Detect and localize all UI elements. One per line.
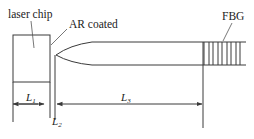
fbg-leader (223, 23, 232, 41)
l2-label: L2 (51, 115, 62, 129)
l1-label: L1 (25, 91, 36, 105)
fbg-grating (204, 42, 240, 65)
laser-chip-label: laser chip (8, 8, 53, 21)
laser-fbg-diagram: laser chip AR coated FBG L1 L (0, 0, 254, 139)
fbg-label: FBG (222, 10, 244, 22)
laser-chip-body (13, 35, 50, 82)
dimension-l3: L3 (62, 91, 202, 105)
ar-coated-leader (51, 29, 67, 45)
lensed-fiber (55, 42, 246, 120)
ar-coated-label: AR coated (69, 18, 118, 30)
l3-label: L3 (120, 91, 131, 105)
laser-chip (13, 35, 50, 122)
dimension-l2: L2 (51, 104, 62, 129)
dimension-l1: L1 (13, 91, 44, 105)
